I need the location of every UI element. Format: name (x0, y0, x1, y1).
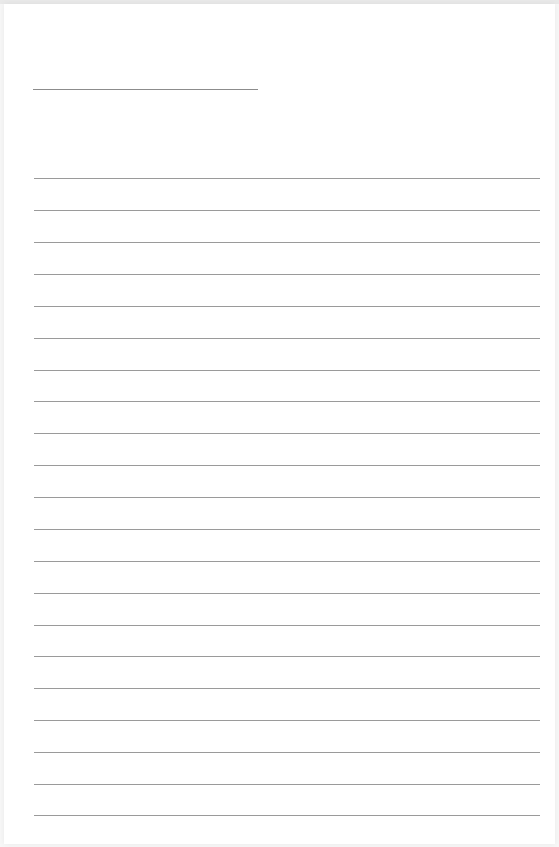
ruled-line (34, 401, 540, 402)
lined-paper-page (4, 4, 555, 844)
ruled-line (34, 306, 540, 307)
ruled-line (34, 242, 540, 243)
ruled-line (34, 561, 540, 562)
ruled-line (34, 815, 540, 816)
ruled-line (34, 178, 540, 179)
ruled-line (34, 497, 540, 498)
ruled-line (34, 752, 540, 753)
name-line (33, 89, 258, 90)
ruled-line (34, 656, 540, 657)
ruled-line (34, 625, 540, 626)
ruled-line (34, 720, 540, 721)
ruled-line (34, 370, 540, 371)
ruled-line (34, 433, 540, 434)
ruled-line (34, 784, 540, 785)
ruled-line (34, 210, 540, 211)
ruled-line (34, 688, 540, 689)
ruled-line (34, 529, 540, 530)
ruled-line (34, 274, 540, 275)
ruled-line (34, 593, 540, 594)
ruled-line (34, 338, 540, 339)
ruled-line (34, 465, 540, 466)
